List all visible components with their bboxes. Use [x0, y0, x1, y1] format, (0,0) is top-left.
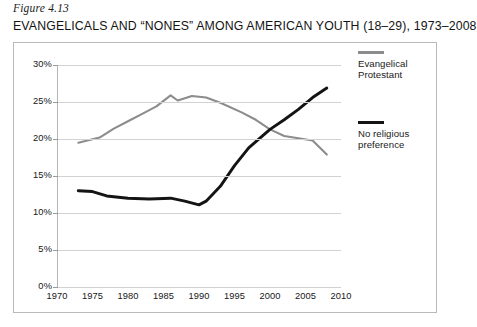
x-tick-label: 2010 [324, 291, 358, 301]
gridline [57, 139, 341, 140]
chart-legend: Evangelical Protestant No religious pref… [358, 51, 436, 151]
y-tick-label: 0% [38, 281, 52, 291]
gridline [57, 213, 341, 214]
chart-frame: 30%25%20%15%10%5%0% 19701975198019851990… [13, 42, 437, 313]
y-tick-label: 10% [33, 207, 52, 217]
y-tick-mark [53, 213, 58, 214]
y-tick-mark [53, 287, 58, 288]
line-no-religious-preference [78, 88, 326, 205]
y-tick-label: 5% [38, 244, 52, 254]
line-evangelical-protestant [78, 95, 326, 154]
x-tick-label: 2005 [289, 291, 323, 301]
y-tick-label: 25% [33, 96, 52, 106]
black-line-swatch-icon [358, 121, 384, 124]
y-axis-labels: 30%25%20%15%10%5%0% [14, 43, 52, 314]
gray-line-swatch-icon [358, 51, 384, 54]
y-tick-mark [53, 176, 58, 177]
x-tick-label: 1975 [76, 291, 110, 301]
gridline [57, 287, 341, 288]
figure-caption: Figure 4.13 [13, 2, 69, 14]
x-tick-label: 1970 [40, 291, 74, 301]
y-tick-mark [53, 250, 58, 251]
gridline [57, 65, 341, 66]
gridline [57, 176, 341, 177]
legend-entry-evangelical-protestant: Evangelical Protestant [358, 51, 436, 81]
y-tick-label: 15% [33, 170, 52, 180]
y-tick-mark [53, 139, 58, 140]
gridline [57, 102, 341, 103]
x-axis-labels: 197019751980198519901995200020052010 [14, 291, 438, 311]
x-tick-label: 1990 [182, 291, 216, 301]
y-tick-label: 20% [33, 133, 52, 143]
legend-label-no-religious-preference: No religious preference [358, 128, 436, 151]
plot-wrapper: 30%25%20%15%10%5%0% 19701975198019851990… [14, 43, 438, 314]
legend-entry-no-religious-preference: No religious preference [358, 121, 436, 151]
x-tick-label: 1985 [147, 291, 181, 301]
x-tick-label: 2000 [253, 291, 287, 301]
y-tick-label: 30% [33, 59, 52, 69]
x-tick-label: 1980 [111, 291, 145, 301]
y-tick-mark [53, 102, 58, 103]
chart-title: EVANGELICALS AND “NONES” AMONG AMERICAN … [13, 19, 477, 33]
x-tick-label: 1995 [218, 291, 252, 301]
plot-area [57, 65, 341, 287]
gridline [57, 250, 341, 251]
legend-label-evangelical-protestant: Evangelical Protestant [358, 58, 436, 81]
y-tick-mark [53, 65, 58, 66]
